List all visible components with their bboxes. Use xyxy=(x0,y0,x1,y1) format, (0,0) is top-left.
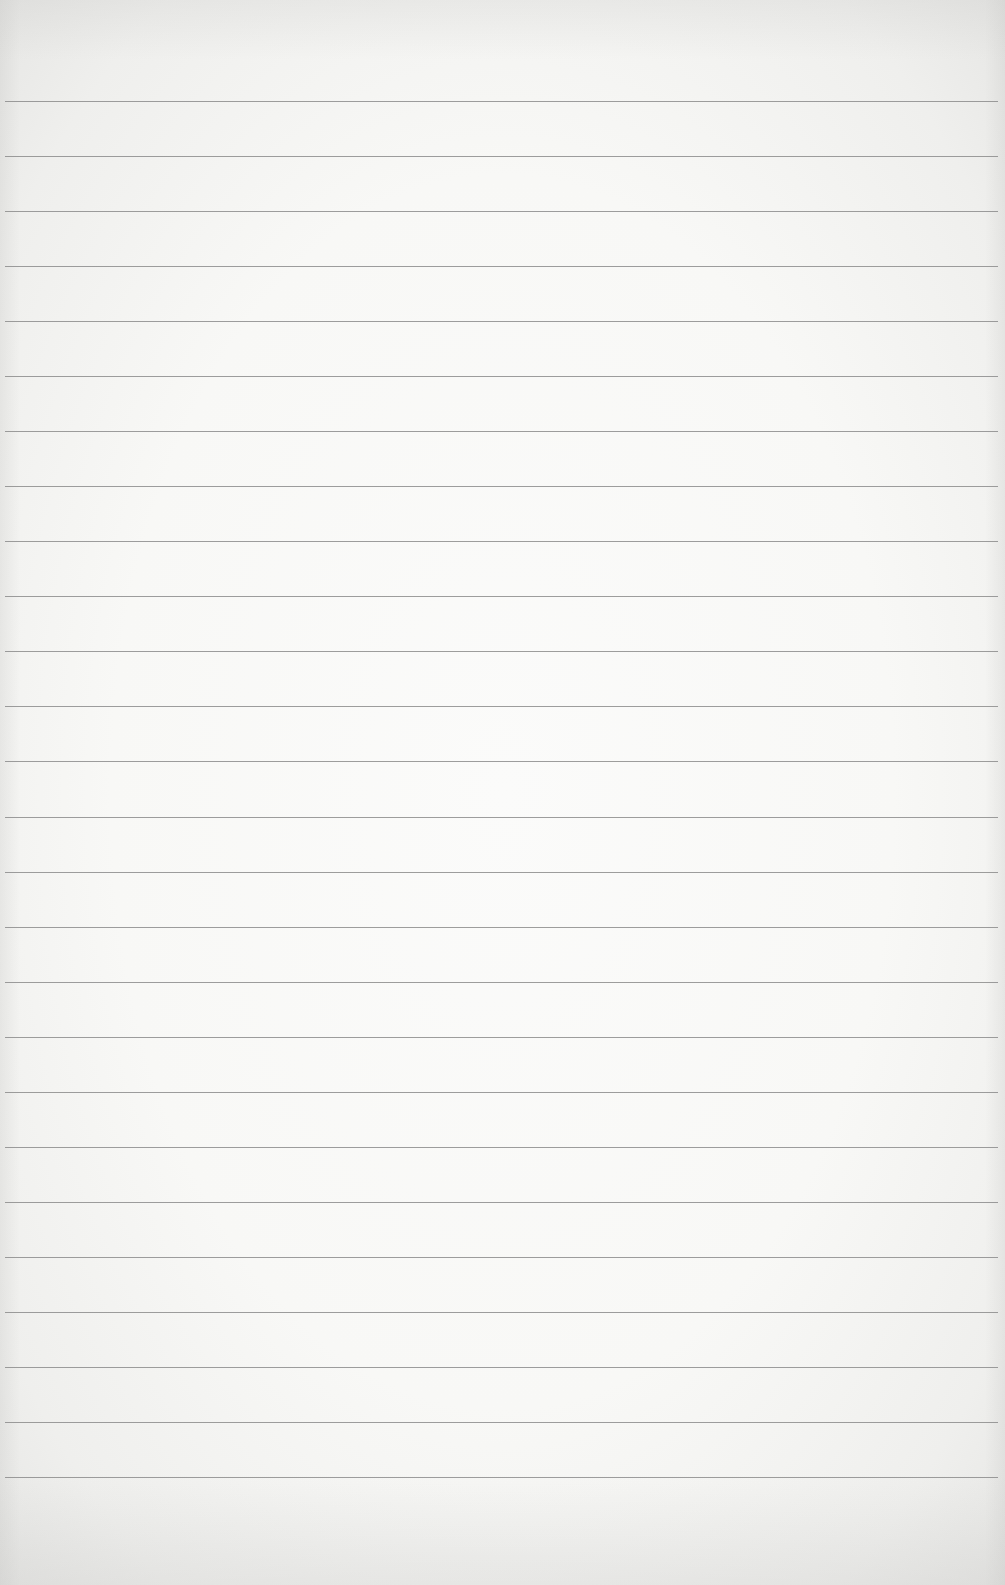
ruled-line xyxy=(5,817,998,819)
ruled-line xyxy=(5,982,998,984)
ruled-line xyxy=(5,211,998,213)
ruled-line xyxy=(5,541,998,543)
lined-paper-sheet xyxy=(0,0,1005,1585)
ruled-line xyxy=(5,431,998,433)
ruled-line xyxy=(5,1202,998,1204)
ruled-line xyxy=(5,706,998,708)
ruled-line xyxy=(5,1422,998,1424)
ruled-line xyxy=(5,156,998,158)
ruled-line xyxy=(5,266,998,268)
ruled-line xyxy=(5,927,998,929)
ruled-line xyxy=(5,1037,998,1039)
ruled-line xyxy=(5,101,998,103)
ruled-line xyxy=(5,1367,998,1369)
ruled-line xyxy=(5,1147,998,1149)
ruled-line xyxy=(5,1092,998,1094)
ruled-line xyxy=(5,1257,998,1259)
ruled-line xyxy=(5,376,998,378)
ruled-line xyxy=(5,596,998,598)
ruled-line xyxy=(5,761,998,763)
ruled-line xyxy=(5,1477,998,1479)
ruled-line xyxy=(5,651,998,653)
ruled-line xyxy=(5,1312,998,1314)
ruled-line xyxy=(5,321,998,323)
ruled-line xyxy=(5,486,998,488)
ruled-line xyxy=(5,872,998,874)
